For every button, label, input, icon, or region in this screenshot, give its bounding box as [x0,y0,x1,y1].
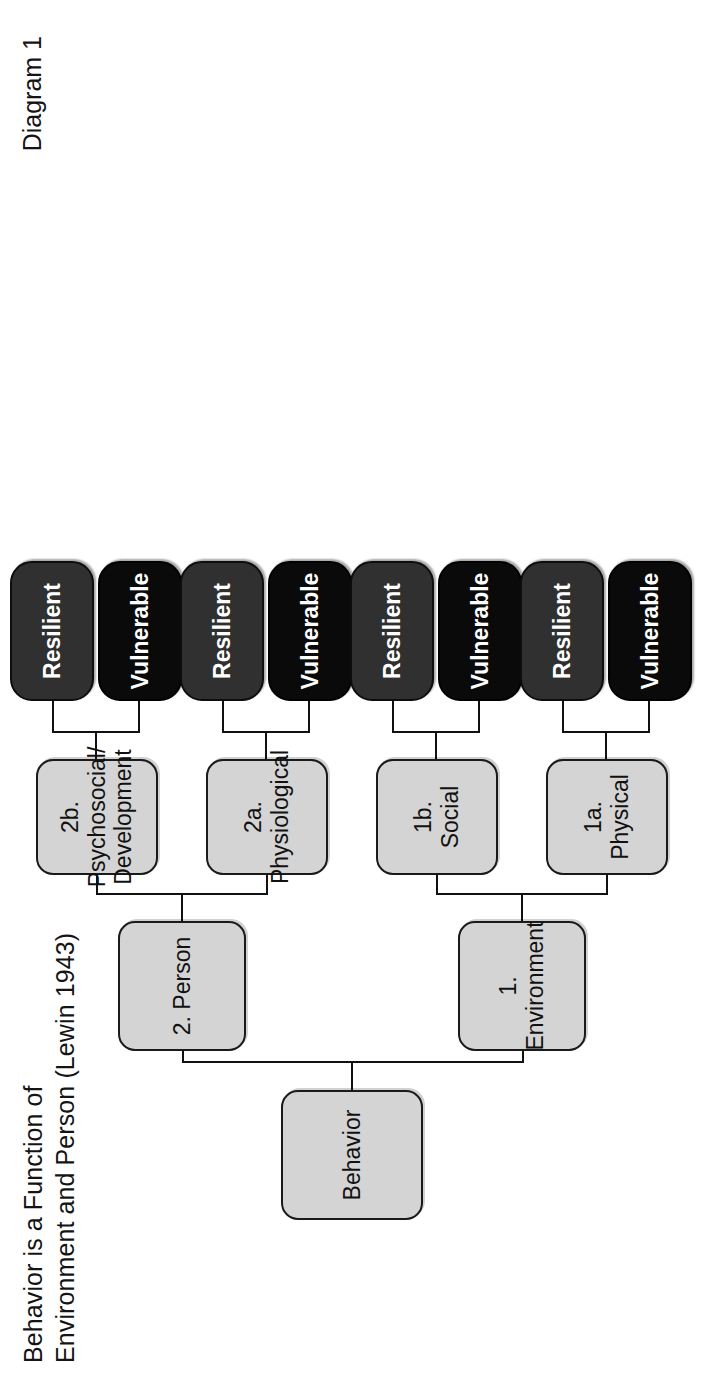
rotated-diagram-wrapper: Behavior is a Function of Environment an… [0,0,710,1373]
node-person[interactable]: 2. Person [118,921,246,1051]
connector-root-trunk [182,1061,524,1063]
connector-social-to-resilient [392,697,394,733]
connector-social-stub [435,731,437,759]
node-behavior[interactable]: Behavior [281,1090,423,1220]
node-physical[interactable]: 1a. Physical [546,759,668,875]
connector-environment-stub [521,893,523,921]
connector-physiological-trunk [222,731,310,733]
leaf-psychosocial-resilient[interactable]: Resilient [10,561,94,701]
diagram-canvas: Behavior is a Function of Environment an… [0,0,710,1373]
connector-social-trunk [392,731,480,733]
diagram-label: Diagram 1 [18,36,47,151]
connector-root-stub [351,1061,353,1090]
connector-physical-to-vulnerable [648,697,650,733]
connector-physiological-to-vulnerable [308,697,310,733]
connector-environment-trunk [436,893,608,895]
leaf-social-vulnerable[interactable]: Vulnerable [438,561,522,701]
node-psychosocial-development[interactable]: 2b. Psychosocial/ Development [36,759,158,875]
leaf-physiological-vulnerable[interactable]: Vulnerable [268,561,352,701]
connector-psychosocial-to-resilient [52,697,54,733]
connector-physical-trunk [562,731,650,733]
node-physiological[interactable]: 2a. Physiological [206,759,328,875]
connector-psychosocial-to-vulnerable [138,697,140,733]
leaf-psychosocial-vulnerable[interactable]: Vulnerable [98,561,182,701]
leaf-physical-resilient[interactable]: Resilient [520,561,604,701]
connector-physical-to-resilient [562,697,564,733]
leaf-physiological-resilient[interactable]: Resilient [180,561,264,701]
leaf-physical-vulnerable[interactable]: Vulnerable [608,561,692,701]
leaf-social-resilient[interactable]: Resilient [350,561,434,701]
node-social[interactable]: 1b. Social [376,759,498,875]
page-title: Behavior is a Function of Environment an… [18,933,81,1363]
connector-social-to-vulnerable [478,697,480,733]
connector-psychosocial-trunk [52,731,140,733]
node-environment[interactable]: 1. Environment [458,921,586,1051]
connector-physiological-to-resilient [222,697,224,733]
connector-physical-stub [605,731,607,759]
connector-person-trunk [96,893,268,895]
connector-person-stub [181,893,183,921]
